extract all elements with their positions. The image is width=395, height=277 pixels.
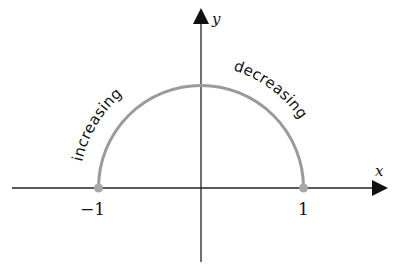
tick-label-minus-one: −1: [80, 199, 105, 219]
endpoint-left: [94, 184, 103, 193]
increasing-label: increasing: [68, 84, 125, 163]
endpoint-right: [299, 184, 308, 193]
x-axis-label: x: [375, 162, 384, 180]
y-axis-label: y: [211, 10, 221, 28]
increasing-text: increasing: [68, 84, 125, 163]
y-axis-arrowhead-icon: [193, 8, 209, 24]
tick-label-one: 1: [298, 199, 309, 219]
x-axis-arrowhead-icon: [372, 180, 388, 196]
semicircle-diagram: x y −1 1 increasing decreasing: [0, 0, 395, 277]
